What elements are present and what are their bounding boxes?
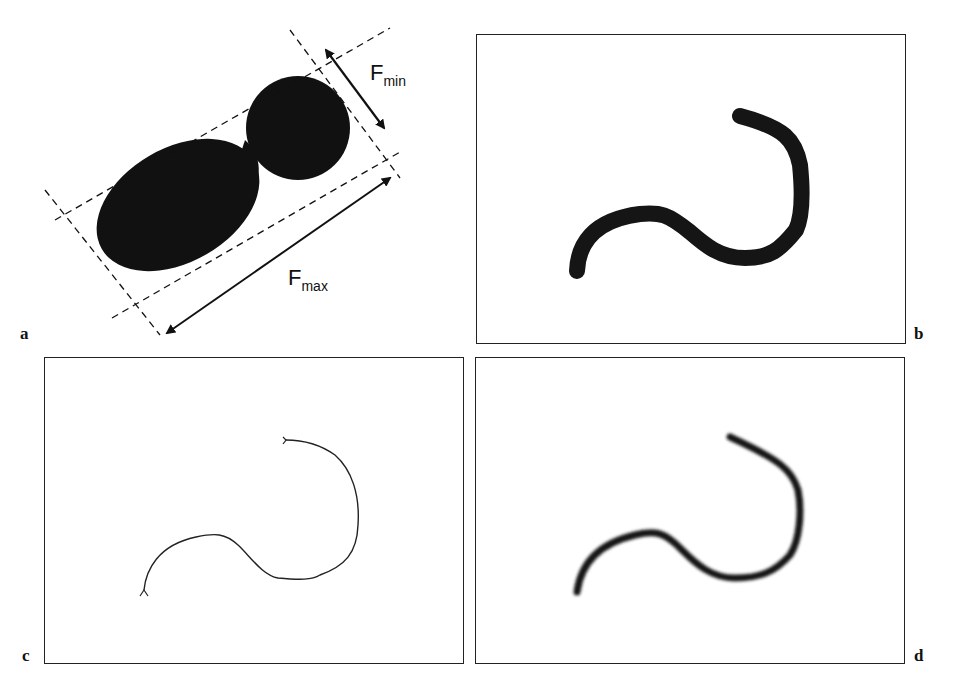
panel-label-d: d [914, 646, 923, 666]
blob-shape [73, 76, 350, 298]
panel-b-frame [476, 34, 906, 344]
panel-c-frame [44, 357, 464, 664]
fmax-label: Fmax [288, 265, 328, 294]
panel-a-diagram: Fmin Fmax [0, 0, 480, 350]
panel-d-frame [475, 357, 905, 664]
fmin-label: Fmin [370, 60, 406, 89]
panel-label-c: c [22, 646, 30, 666]
panel-label-b: b [914, 324, 923, 344]
panel-label-a: a [20, 324, 29, 344]
